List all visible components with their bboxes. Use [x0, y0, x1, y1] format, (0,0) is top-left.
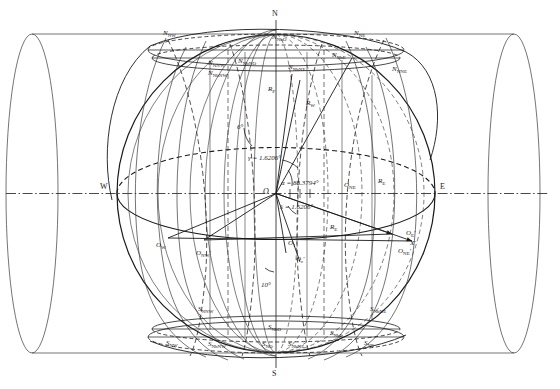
- label-s-nnw: SNNW: [198, 306, 213, 314]
- label-n-nbno: NNbNO: [238, 58, 256, 66]
- figure-canvas: N S E W O γ = 1.6206° α = 88.3794° λ = 1…: [0, 0, 560, 389]
- angle-arcs: [244, 128, 298, 272]
- label-radius-re-upper: RE: [378, 178, 385, 186]
- label-o-ne: ONE: [344, 182, 356, 190]
- label-s-nbo: SNbO: [268, 324, 281, 332]
- label-o-c-prime: Oc′: [296, 256, 305, 264]
- label-angle-lambda: λ = 1.6206°: [280, 204, 313, 211]
- label-radius-re-lower: RE: [330, 224, 337, 232]
- label-s-nnew: SNbNE: [370, 306, 386, 314]
- label-o-e-prime: OE′: [406, 230, 416, 238]
- label-center-o: O: [263, 188, 269, 196]
- label-radius-rp: RP: [268, 86, 275, 94]
- label-o-ne-prime: ONE′: [398, 248, 411, 256]
- label-radius-rw: RW: [306, 100, 315, 108]
- label-o-w: OW: [156, 242, 166, 250]
- label-n-nne: NNNE: [392, 66, 407, 74]
- label-n-nw: NNW: [163, 30, 176, 38]
- construction-verticals: [210, 52, 372, 336]
- label-s-nbne: SNbNE: [288, 341, 304, 349]
- label-south: S: [272, 370, 276, 378]
- label-north: N: [272, 10, 278, 18]
- label-angle-gamma: γ = 1.6206°: [248, 155, 281, 162]
- label-o-1: O1: [288, 240, 296, 248]
- label-n-nnw: NNNW: [208, 60, 225, 68]
- label-s-nw: SNW: [166, 340, 178, 348]
- label-s-nbnw: SNbNW: [208, 341, 226, 349]
- label-angle-10deg: 10°: [261, 282, 271, 289]
- label-s-nbe: SNbE: [330, 330, 343, 338]
- label-n-nbnw: NNbNW: [208, 70, 227, 78]
- radius-vectors: [168, 58, 412, 262]
- label-n-nbe: NNbE: [332, 52, 346, 60]
- label-n-ne: NNE: [354, 30, 365, 38]
- label-angle-alpha: α = 88.3794°: [281, 180, 318, 187]
- label-x-prime: X′: [410, 240, 416, 247]
- label-angle-6deg: 6°: [237, 124, 243, 131]
- label-west: W: [100, 183, 108, 191]
- label-n-nbo: NNbO: [272, 34, 286, 42]
- label-s-no: SNO: [262, 341, 273, 349]
- label-n-nbne: NNbNE: [288, 64, 305, 72]
- label-east: E: [440, 183, 445, 191]
- label-s-ne: SNE: [364, 340, 374, 348]
- label-o-nw-prime: ONW′: [196, 250, 211, 258]
